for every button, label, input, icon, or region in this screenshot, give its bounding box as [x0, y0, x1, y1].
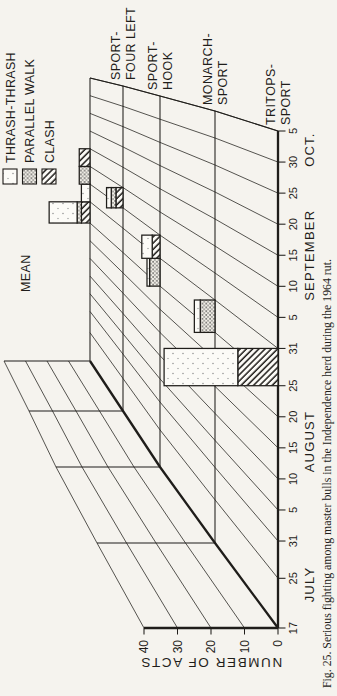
legend-swatch-clash — [42, 169, 56, 184]
legend-label: THRASH-THRASH — [4, 52, 18, 163]
date-tick-label: 10 — [287, 280, 299, 292]
bar-segment-thrash_thrash — [81, 184, 90, 202]
date-gridline — [90, 311, 278, 541]
bar-segment-parallel_walk — [150, 258, 160, 286]
bar-segment-clash — [79, 149, 90, 167]
value-depth-line — [47, 361, 211, 628]
date-gridline — [90, 202, 278, 349]
value-depth-line — [69, 361, 245, 628]
y-axis-title: NUMBER OF ACTS — [140, 655, 282, 670]
value-tick-label: 0 — [271, 640, 285, 647]
bar-segment-parallel_walk — [79, 166, 90, 184]
date-tick-label: 20 — [287, 218, 299, 230]
chart-bars — [49, 149, 278, 386]
row-label: SPORT — [216, 60, 230, 105]
month-label: JULY — [302, 567, 317, 603]
date-tick-label: 5 — [287, 314, 299, 320]
value-tick-label: 20 — [204, 640, 218, 654]
bar-segment-thrash_thrash — [194, 300, 200, 332]
legend-label: PARALLEL WALK — [23, 58, 37, 163]
bar-segment-thrash_thrash — [142, 235, 152, 258]
date-gridline — [90, 131, 278, 224]
bar-segment-thrash_thrash — [49, 202, 77, 223]
bar-segment-clash — [81, 202, 90, 223]
figure-caption-group: Fig. 25. Serious fighting among master b… — [320, 259, 334, 688]
row-label-mean: MEAN — [19, 254, 33, 292]
bar-segment-thrash_thrash — [147, 258, 150, 286]
bar-segment-parallel_walk — [77, 202, 81, 223]
date-tick-label: 25 — [287, 380, 299, 392]
date-tick-label: 5 — [287, 128, 299, 134]
row-label: FOUR LEFT — [124, 7, 138, 80]
rotated-figure-page: 17253151015202531510152025305JULYAUGUSTS… — [0, 0, 337, 696]
month-label: OCT. — [302, 132, 317, 166]
legend-label: CLASH — [43, 120, 57, 163]
row-label: SPORT — [279, 80, 293, 125]
bar-segment-clash — [116, 188, 123, 208]
value-tick-label: 30 — [171, 640, 185, 654]
date-tick-label: 20 — [287, 411, 299, 423]
bar-segment-clash — [152, 235, 160, 258]
chart-axes: 17253151015202531510152025305JULYAUGUSTS… — [90, 128, 317, 670]
date-tick-label: 31 — [287, 342, 299, 354]
row-label: MONARCH- — [201, 33, 215, 105]
date-tick-label: 15 — [287, 442, 299, 454]
date-tick-label: 31 — [287, 535, 299, 547]
date-gridline — [90, 113, 278, 193]
value-depth-line — [26, 361, 178, 628]
figure-caption: Fig. 25. Serious fighting among master b… — [320, 259, 334, 688]
date-gridline — [90, 241, 278, 417]
bar-segment-parallel_walk — [200, 300, 215, 332]
depth-edge-left — [90, 361, 278, 628]
date-tick-label: 5 — [287, 507, 299, 513]
value-tick-label: 40 — [137, 640, 151, 654]
bar-segment-clash — [238, 348, 278, 385]
legend-swatch-thrash_thrash — [3, 169, 17, 184]
value-tick-label: 10 — [238, 640, 252, 654]
row-label: SPORT- — [146, 41, 160, 90]
row-label: TRITOPS- — [264, 64, 278, 125]
legend-swatch-parallel_walk — [23, 169, 37, 184]
chart-legend: THRASH-THRASHPARALLEL WALKCLASH — [3, 52, 57, 184]
date-tick-label: 30 — [287, 156, 299, 168]
date-tick-label: 10 — [287, 473, 299, 485]
row-label: HOOK — [161, 51, 175, 90]
bar-segment-parallel_walk — [111, 188, 116, 208]
bar-segment-thrash_thrash — [107, 188, 112, 208]
date-tick-label: 25 — [287, 572, 299, 584]
bar-segment-thrash_thrash — [164, 348, 238, 385]
month-label: AUGUST — [302, 411, 317, 472]
date-tick-label: 15 — [287, 249, 299, 261]
figure-25-chart: 17253151015202531510152025305JULYAUGUSTS… — [0, 0, 337, 696]
row-label: SPORT- — [109, 31, 123, 80]
date-tick-label: 25 — [287, 187, 299, 199]
month-label: SEPTEMBER — [302, 210, 317, 301]
date-tick-label: 17 — [287, 622, 299, 634]
